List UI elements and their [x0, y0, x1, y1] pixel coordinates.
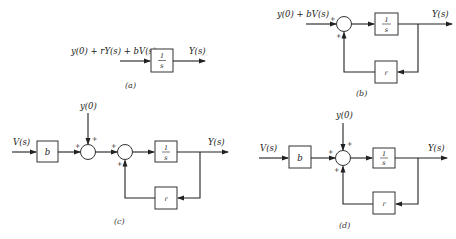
diagram-d-caption: (d): [339, 221, 350, 230]
diagram-c-summing-junction-1: [81, 145, 96, 160]
diagram-d-sum-sign-top: +: [347, 140, 352, 148]
diagram-a-input-label: y(0) + rY(s) + bV(s): [70, 46, 156, 56]
diagram-c-gain-label: b: [45, 147, 50, 157]
diagram-a-caption: (a): [125, 81, 136, 90]
diagram-b-input-label: y(0) + bV(s): [276, 9, 329, 19]
diagram-b-feedback-return: [344, 33, 375, 73]
diagram-b-sum-sign-input: +: [330, 15, 335, 23]
diagram-b-block-numerator: 1: [384, 16, 388, 24]
diagram-d-summing-junction: [336, 151, 351, 166]
diagram-d-feedback-takeoff: [396, 158, 418, 204]
diagram-d: V(s) b y(0) + + + 1 s Y(s) r (d): [259, 110, 447, 230]
diagram-d-sum-sign-left: +: [328, 148, 333, 156]
diagram-b: y(0) + bV(s) + + 1 s Y(s) r (b): [276, 9, 452, 98]
diagram-b-feedback-takeoff: [398, 24, 418, 72]
diagram-d-gain-label: b: [297, 153, 302, 163]
diagram-c: V(s) b y(0) + + + + 1 s Y(s) r (c): [12, 101, 228, 226]
diagram-b-output-label: Y(s): [432, 9, 449, 19]
diagram-b-sum-sign-feedback: +: [336, 32, 341, 40]
diagram-c-block-numerator: 1: [164, 144, 168, 152]
diagram-c-sum1-sign-left: +: [75, 142, 80, 150]
diagram-a-block-numerator: 1: [160, 52, 164, 60]
diagram-d-feedback-return: [343, 167, 373, 205]
diagram-d-block-numerator: 1: [382, 150, 386, 158]
diagram-d-initial-label: y(0): [335, 110, 353, 120]
diagram-c-output-label: Y(s): [208, 137, 225, 147]
diagram-c-caption: (c): [114, 217, 125, 226]
diagram-d-sum-sign-bottom: +: [334, 166, 339, 174]
diagram-c-initial-label: y(0): [79, 101, 97, 111]
diagram-b-summing-junction: [337, 17, 352, 32]
diagram-a-output-label: Y(s): [189, 46, 206, 56]
diagram-b-caption: (b): [356, 89, 367, 98]
diagram-c-sum2-sign-bottom: +: [117, 160, 122, 168]
diagram-c-feedback-takeoff: [178, 152, 200, 198]
diagram-c-sum2-sign-left: +: [111, 142, 116, 150]
diagram-c-sum1-sign-top: +: [92, 135, 97, 143]
diagram-a: y(0) + rY(s) + bV(s) 1 s Y(s) (a): [70, 46, 206, 90]
diagram-c-input-label: V(s): [13, 137, 30, 147]
diagram-d-input-label: V(s): [260, 143, 277, 153]
diagram-c-feedback-return: [125, 161, 155, 199]
diagram-d-output-label: Y(s): [428, 143, 445, 153]
block-diagrams-figure: y(0) + rY(s) + bV(s) 1 s Y(s) (a) y(0) +…: [0, 0, 456, 239]
diagram-c-summing-junction-2: [118, 145, 133, 160]
